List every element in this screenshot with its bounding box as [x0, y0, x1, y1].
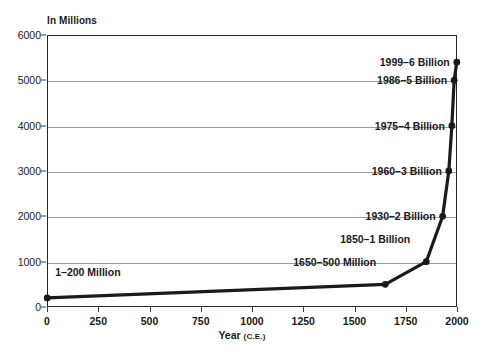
y-tick-label: 0: [0, 301, 41, 313]
x-tick-label: 1500: [343, 315, 366, 327]
y-tick-label: 2000: [0, 210, 41, 222]
x-tick-mark: [406, 307, 407, 312]
y-tick-label: 5000: [0, 74, 41, 86]
x-tick-mark: [150, 307, 151, 312]
point-annotation: 1850–1 Billion: [340, 233, 410, 245]
x-tick-label: 1750: [394, 315, 417, 327]
x-tick-label: 250: [89, 315, 107, 327]
y-tick-mark: [41, 35, 46, 36]
x-tick-mark: [98, 307, 99, 312]
x-tick-label: 750: [192, 315, 210, 327]
population-growth-chart: In Millions 0100020003000400050006000 02…: [0, 0, 484, 356]
x-tick-label: 0: [44, 315, 50, 327]
x-tick-mark: [47, 307, 48, 312]
y-tick-mark: [41, 125, 46, 126]
x-tick-mark: [457, 307, 458, 312]
point-annotation: 1975–4 Billion: [375, 120, 445, 132]
point-annotation: 1930–2 Billion: [366, 210, 436, 222]
y-axis-unit-label: In Millions: [47, 15, 97, 26]
y-tick-mark: [41, 80, 46, 81]
x-tick-mark: [252, 307, 253, 312]
y-tick-mark: [41, 216, 46, 217]
x-axis-title-main: Year: [218, 329, 240, 341]
x-tick-label: 500: [141, 315, 159, 327]
x-tick-label: 2000: [445, 315, 468, 327]
x-tick-mark: [303, 307, 304, 312]
y-tick-label: 4000: [0, 120, 41, 132]
x-tick-mark: [355, 307, 356, 312]
x-tick-label: 1000: [240, 315, 263, 327]
y-axis-ticks: 0100020003000400050006000: [0, 35, 41, 307]
x-axis-title-era: (C.E.): [244, 332, 266, 341]
y-tick-label: 3000: [0, 165, 41, 177]
y-tick-label: 1000: [0, 256, 41, 268]
gridline: [48, 263, 456, 264]
point-annotation: 1–200 Million: [55, 266, 120, 278]
y-tick-label: 6000: [0, 29, 41, 41]
x-tick-label: 1250: [292, 315, 315, 327]
point-annotation: 1650–500 Million: [293, 256, 376, 268]
x-axis-title: Year (C.E.): [0, 329, 484, 341]
x-tick-mark: [201, 307, 202, 312]
y-tick-mark: [41, 307, 46, 308]
y-tick-mark: [41, 171, 46, 172]
y-tick-mark: [41, 261, 46, 262]
point-annotation: 1960–3 Billion: [372, 165, 442, 177]
point-annotation: 1999–6 Billion: [380, 56, 450, 68]
point-annotation: 1986–5 Billion: [377, 74, 447, 86]
